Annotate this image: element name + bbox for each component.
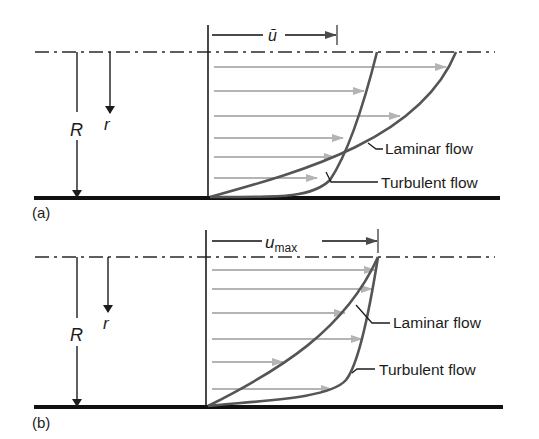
turbulent-flow-label: Turbulent flow: [379, 361, 477, 378]
laminar-profile-curve: [208, 257, 378, 406]
radial-coordinate-arrow: r: [104, 52, 111, 134]
radial-coordinate-label: r: [103, 314, 110, 333]
turbulent-profile-curve: [210, 52, 377, 197]
mean-velocity-dimension: ū: [212, 25, 337, 45]
laminar-flow-label: Laminar flow: [385, 140, 474, 157]
radius-label: R: [70, 325, 83, 345]
panel-label-a: (a): [32, 204, 50, 221]
turbulent-leader: [352, 369, 375, 373]
mean-velocity-label: ū: [268, 27, 277, 44]
turbulent-profile-curve: [208, 257, 378, 406]
panel-label-b: (b): [32, 414, 50, 431]
laminar-flow-label: Laminar flow: [393, 314, 482, 331]
max-velocity-dimension: umax: [212, 229, 378, 255]
turbulent-flow-label: Turbulent flow: [381, 174, 479, 191]
laminar-leader: [356, 305, 390, 323]
max-velocity-label: umax: [265, 233, 297, 255]
radial-coordinate-arrow: r: [103, 257, 110, 333]
radius-arrow: R: [70, 257, 83, 406]
max-velocity-subscript: max: [274, 241, 297, 255]
radius-label: R: [70, 120, 83, 140]
panel-b: umax R r Laminar flow Turbulent flow (b): [32, 229, 503, 431]
velocity-profile-diagram: ū R r Laminar flow Turbulent flo: [0, 0, 539, 439]
velocity-arrows: [214, 67, 446, 178]
radius-arrow: R: [70, 52, 83, 197]
laminar-leader: [368, 143, 383, 149]
radial-coordinate-label: r: [104, 115, 111, 134]
panel-a: ū R r Laminar flow Turbulent flo: [32, 25, 500, 221]
